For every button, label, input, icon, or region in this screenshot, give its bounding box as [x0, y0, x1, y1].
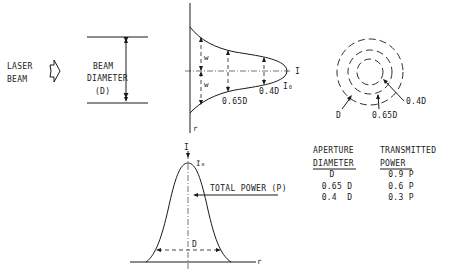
w-marker-bottom: w: [204, 80, 209, 89]
col1-header-2: DIAMETER: [313, 159, 354, 168]
radial-axis-label: r: [193, 124, 198, 133]
w-marker-top: w: [204, 53, 209, 62]
circle-label-inner: 0.4D: [406, 97, 426, 106]
row-3-aperture: 0.4 D: [322, 193, 353, 202]
laser-beam-diagram: LASER BEAM BEAM DIAMETER (D) w w 0.65D 0…: [0, 0, 450, 274]
col2-header-1: TRANSMITTED: [380, 146, 436, 155]
laser-beam-label: LASER BEAM: [7, 62, 33, 84]
row-1-power: 0.9 P: [388, 170, 414, 179]
intensity-profile-side: w w 0.65D 0.4D I I₀ r: [185, 3, 300, 133]
beam-diameter-indicator: BEAM DIAMETER (D): [87, 37, 148, 103]
beam-diameter-label-3: (D): [95, 87, 110, 96]
gaussian-intensity-axis: I: [184, 143, 189, 152]
label-065d: 0.65D: [222, 97, 248, 106]
gaussian-peak-label: I₀: [196, 159, 206, 168]
aperture-circles: D 0.65D 0.4D: [336, 39, 426, 120]
gaussian-profile: I I₀ TOTAL POWER (P) D r: [130, 143, 287, 270]
beam-label: BEAM: [7, 75, 27, 84]
transmission-table: APERTURE DIAMETER TRANSMITTED POWER D 0.…: [313, 146, 436, 202]
total-power-label: TOTAL POWER (P): [210, 184, 287, 193]
laser-label: LASER: [7, 62, 33, 71]
col2-header-2: POWER: [380, 159, 406, 168]
beam-direction-arrow-icon: [50, 60, 60, 82]
beam-diameter-label-2: DIAMETER: [87, 74, 128, 83]
row-2-power: 0.6 P: [388, 182, 414, 191]
row-3-power: 0.3 P: [388, 193, 414, 202]
gaussian-width-label: D: [192, 240, 197, 249]
beam-diameter-label-1: BEAM: [93, 62, 113, 71]
label-04d: 0.4D: [259, 87, 279, 96]
col1-header-1: APERTURE: [313, 146, 354, 155]
peak-intensity-label: I₀: [283, 82, 293, 91]
circle-label-middle: 0.65D: [372, 111, 398, 120]
row-2-aperture: 0.65 D: [322, 182, 353, 191]
circle-label-outer: D: [336, 111, 341, 120]
row-1-aperture: D: [329, 170, 334, 179]
gaussian-radial-axis: r: [257, 257, 262, 266]
intensity-axis-label: I: [295, 67, 300, 76]
